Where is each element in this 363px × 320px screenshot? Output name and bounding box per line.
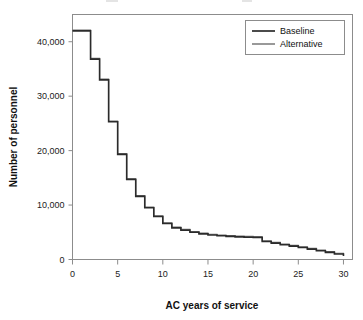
x-tick-label: 5 <box>115 269 120 279</box>
x-tick-label: 25 <box>293 269 303 279</box>
y-tick-label: 0 <box>59 255 64 265</box>
series-line-baseline <box>73 31 344 256</box>
series-line-alternative <box>73 30 344 255</box>
x-tick-label: 15 <box>203 269 213 279</box>
x-tick-group: 051015202530 <box>70 260 348 279</box>
y-axis-title: Number of personnel <box>8 87 19 188</box>
step-chart: 010,00020,00030,00040,000 051015202530 A… <box>0 0 363 320</box>
x-tick-label: 0 <box>70 269 75 279</box>
x-tick-label: 10 <box>158 269 168 279</box>
x-tick-label: 20 <box>248 269 258 279</box>
legend-label-baseline: Baseline <box>280 26 315 36</box>
x-axis: 051015202530 <box>70 260 348 279</box>
y-axis: 010,00020,00030,00040,000 <box>37 37 73 265</box>
y-tick-label: 40,000 <box>37 37 65 47</box>
y-tick-label: 10,000 <box>37 200 65 210</box>
x-axis-title: AC years of service <box>166 300 259 311</box>
y-tick-group: 010,00020,00030,00040,000 <box>37 37 73 265</box>
y-tick-label: 20,000 <box>37 146 65 156</box>
legend: Baseline Alternative <box>246 21 345 55</box>
legend-label-alternative: Alternative <box>280 39 323 49</box>
y-tick-label: 30,000 <box>37 91 65 101</box>
chart-container: 010,00020,00030,00040,000 051015202530 A… <box>0 0 363 320</box>
x-tick-label: 30 <box>338 269 348 279</box>
